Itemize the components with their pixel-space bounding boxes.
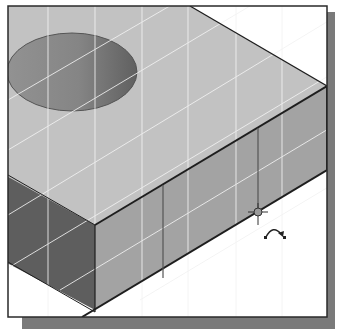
cad-viewport[interactable] <box>0 0 348 329</box>
isometric-block-drawing <box>0 0 348 329</box>
frame-shadow-right <box>327 12 335 325</box>
cylindrical-hole <box>7 33 137 111</box>
frame-shadow-bottom <box>22 317 335 329</box>
